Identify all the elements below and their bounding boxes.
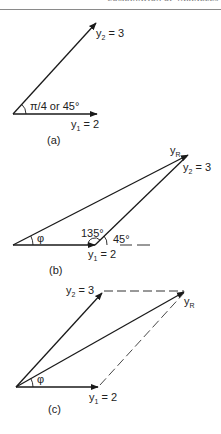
label-y1: y1 = 2 [71,118,99,132]
label-yR: yR [170,144,181,158]
caption-a: (a) [47,134,60,146]
vector-y2 [16,293,102,387]
label-y2: y2 = 3 [96,27,124,41]
diagram-b: yR y2 = 3 φ 135° 45° y1 = 2 (b) [13,144,211,276]
vector-y2 [95,156,187,245]
caption-c: (c) [48,403,61,415]
label-y1: y1 = 2 [89,391,117,405]
label-angle: π/4 or 45° [30,100,79,112]
label-phi: φ [37,373,44,385]
label-yR: yR [184,295,195,309]
angle-45-arc [104,236,107,245]
phi-arc [31,379,33,388]
vector-diagrams: y2 = 3 π/4 or 45° y1 = 2 (a) yR y2 = 3 φ… [0,0,221,434]
parallel-dashed-right [100,293,184,385]
label-y1: y1 = 2 [88,248,116,262]
phi-arc [31,236,33,245]
angle-arc [22,104,26,114]
label-45: 45° [113,233,130,245]
label-135: 135° [81,227,104,239]
label-phi: φ [37,232,44,244]
caption-b: (b) [49,264,62,276]
diagram-c: y2 = 3 yR φ y1 = 2 (c) [16,284,195,415]
label-y2: y2 = 3 [183,161,211,175]
diagram-a: y2 = 3 π/4 or 45° y1 = 2 (a) [13,23,124,146]
label-y2: y2 = 3 [66,284,94,298]
